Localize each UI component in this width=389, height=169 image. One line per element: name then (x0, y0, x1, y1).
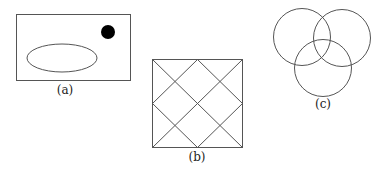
diagonal-lattice (153, 60, 243, 148)
figure-a: (a) (17, 15, 131, 98)
filled-dot (101, 25, 115, 39)
circle-bottom (295, 40, 352, 97)
figure-canvas: (a) (b) (c) (0, 0, 389, 169)
figure-a-label: (a) (57, 83, 74, 97)
ellipse-outline (27, 44, 97, 72)
rectangle-outline (17, 15, 131, 81)
figure-b: (b) (153, 60, 243, 165)
figure-c: (c) (274, 9, 371, 112)
circle-right (314, 10, 371, 67)
figure-b-label: (b) (188, 150, 205, 164)
figure-c-label: (c) (315, 97, 331, 111)
